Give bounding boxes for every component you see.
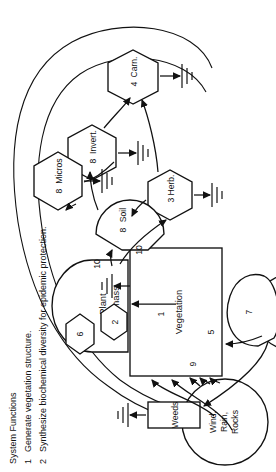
- weeds-box: Weeds: [148, 402, 200, 429]
- screenshot-root: Wind, Rain, Rocks Sun 7 Vegetation: [0, 0, 276, 472]
- arrow-invert-carn: [104, 98, 130, 128]
- legend-item-1-text: Generate vegetation structure.: [23, 330, 33, 452]
- carn-number: 4: [129, 81, 139, 86]
- legend-item-2-number: 2: [38, 459, 48, 464]
- hexagon-carnivores: 4 Carn.: [108, 50, 158, 104]
- flow-number-1: 1: [156, 311, 166, 316]
- interaction-seven: 7: [227, 275, 276, 346]
- ground-carnivores: [160, 64, 192, 88]
- legend-heading: System Functions: [8, 392, 18, 464]
- vegetation-box: Vegetation: [130, 248, 222, 376]
- ground-invertebrates: [118, 141, 148, 165]
- legend-item-1-number: 1: [23, 459, 33, 464]
- hex-six-number: 6: [75, 331, 85, 336]
- invert-label: Invert.: [88, 130, 98, 154]
- micros-number: 8: [54, 188, 64, 193]
- source-label-line-2: Rain,: [219, 412, 229, 432]
- soil-label: Soil: [118, 208, 128, 222]
- ground-herbivores: [194, 183, 222, 207]
- soil-number: 8: [118, 227, 128, 232]
- vegetation-label: Vegetation: [173, 290, 184, 334]
- invert-number: 8: [88, 158, 98, 163]
- legend-item-2-text: Synthesize biochemical diversity for epi…: [38, 226, 48, 452]
- weeds-label: Weeds: [170, 402, 180, 429]
- herb-number: 3: [166, 197, 176, 202]
- energy-systems-diagram: Wind, Rain, Rocks Sun 7 Vegetation: [0, 0, 276, 472]
- flow-number-9: 9: [188, 361, 198, 366]
- source-label-line-3: Rocks: [230, 410, 240, 434]
- legend-block: System Functions 1 Generate vegetation s…: [8, 226, 48, 464]
- hex-two-number: 2: [110, 319, 120, 324]
- arrow-wind-1: [190, 378, 200, 386]
- diagram-stage: Wind, Rain, Rocks Sun 7 Vegetation: [0, 0, 276, 472]
- flow-number-7: 7: [244, 309, 254, 314]
- flow-number-5: 5: [206, 329, 216, 334]
- herb-label: Herb.: [166, 174, 176, 195]
- flow-number-10-a: 10: [134, 245, 144, 255]
- flow-number-10-b: 10: [92, 259, 102, 269]
- arrow-wind-2: [200, 378, 210, 384]
- micros-label: Micros: [54, 158, 64, 183]
- arrow-herb-carn: [142, 100, 158, 172]
- carn-label: Carn.: [129, 56, 139, 77]
